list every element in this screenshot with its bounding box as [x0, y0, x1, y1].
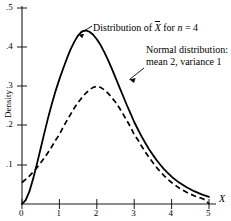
figure-container: .5 .4 .3 .2 .1 0 1 2 3 4 5 Density X Dis… [0, 0, 231, 221]
annotation-solid-n: n [177, 22, 182, 33]
x-tick-label-5: 5 [206, 208, 211, 218]
callout-leader-dashed [130, 68, 145, 83]
y-axis-label: Density [3, 80, 13, 128]
y-tick-label-5: .5 [6, 2, 13, 12]
y-tick-label-1: .1 [6, 159, 13, 169]
curve-normal-distribution [22, 86, 209, 204]
x-tick-label-2: 2 [94, 208, 99, 218]
annotation-solid-eq: = 4 [185, 22, 198, 33]
annotation-sampling-distribution: Distribution of X for n = 4 [93, 22, 198, 34]
annotation-dashed-line2: mean 2, variance 1 [146, 56, 228, 68]
x-bar-symbol: X [155, 22, 161, 34]
y-tick-label-4: .4 [6, 41, 13, 51]
x-tick-label-0: 0 [19, 208, 24, 218]
annotation-solid-text: Distribution of [93, 22, 152, 33]
annotation-dashed-line1: Normal distribution: [146, 44, 228, 56]
annotation-solid-for: for [163, 22, 175, 33]
annotation-normal-distribution: Normal distribution: mean 2, variance 1 [146, 44, 228, 67]
x-tick-label-1: 1 [56, 208, 61, 218]
x-axis-label: X [219, 193, 225, 204]
x-tick-label-3: 3 [131, 208, 136, 218]
x-tick-label-4: 4 [169, 208, 174, 218]
